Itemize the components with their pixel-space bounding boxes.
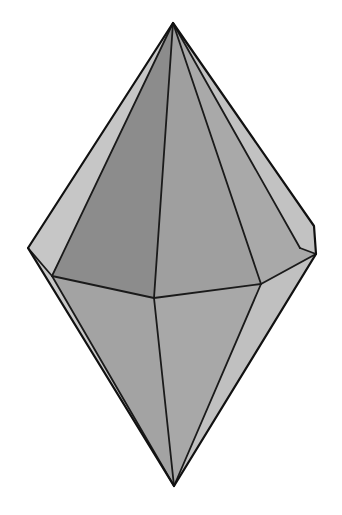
upper-face-left-dark bbox=[52, 23, 173, 298]
bipyramid-diagram bbox=[0, 0, 342, 515]
